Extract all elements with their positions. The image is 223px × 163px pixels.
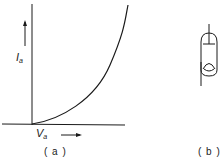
- heater: [204, 69, 214, 71]
- caption-b: ( b ): [198, 147, 221, 157]
- x-axis: [2, 124, 125, 125]
- y-axis-subscript: a: [19, 57, 23, 64]
- x-axis-label: Va: [36, 128, 47, 139]
- y-arrow-icon: [23, 20, 27, 46]
- cathode: [203, 64, 215, 70]
- y-axis-label: Ia: [16, 52, 23, 63]
- diagram-canvas: [0, 0, 223, 163]
- characteristic-curve: [32, 5, 128, 124]
- x-arrow-icon: [61, 133, 82, 137]
- vacuum-tube-diode-icon: [201, 24, 217, 86]
- x-axis-subscript: a: [43, 133, 47, 140]
- graph-a: [2, 4, 128, 137]
- caption-a: ( a ): [44, 147, 67, 157]
